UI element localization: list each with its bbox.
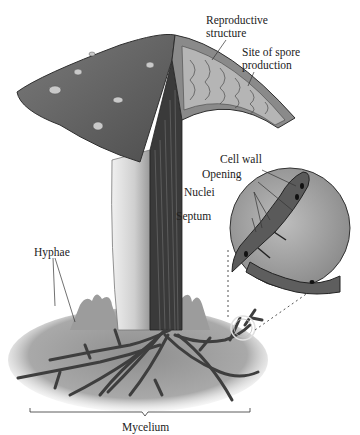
hypha-inset: [230, 168, 350, 294]
label-nuclei: Nuclei: [184, 186, 215, 199]
label-site-of-spore-production: Site of spore production: [242, 46, 300, 72]
label-hyphae: Hyphae: [34, 246, 70, 259]
label-reproductive-structure: Reproductive structure: [206, 14, 268, 40]
label-cell-wall: Cell wall: [220, 153, 262, 166]
label-opening: Opening: [202, 168, 242, 181]
label-mycelium: Mycelium: [122, 421, 169, 434]
stalk: [112, 150, 150, 330]
cap: [17, 34, 175, 162]
mushroom-diagram: Reproductive structure Site of spore pro…: [0, 0, 360, 435]
label-septum: Septum: [176, 210, 211, 223]
